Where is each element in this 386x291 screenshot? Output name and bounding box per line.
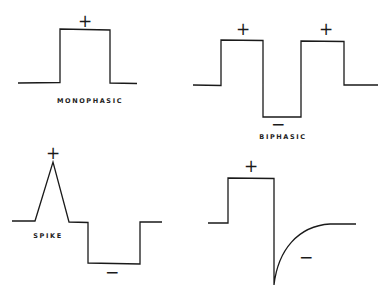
positive-sign: + <box>244 156 258 176</box>
biphasic-waveform-group: + + − BIPHASIC <box>193 19 378 141</box>
biphasic-label: BIPHASIC <box>259 133 306 141</box>
waveform-diagram: + MONOPHASIC + + − BIPHASIC + − SPIKE + … <box>0 0 386 291</box>
exponential-waveform <box>208 178 356 285</box>
monophasic-waveform <box>18 29 137 84</box>
negative-sign: − <box>105 262 119 282</box>
positive-sign: + <box>78 11 92 31</box>
negative-sign: − <box>271 114 285 134</box>
monophasic-label: MONOPHASIC <box>57 97 123 105</box>
spike-waveform-group: + − SPIKE <box>12 143 162 282</box>
exponential-waveform-group: + − <box>208 156 356 285</box>
positive-sign: + <box>236 19 250 39</box>
positive-sign: + <box>319 19 333 39</box>
positive-sign: + <box>46 143 60 163</box>
spike-waveform <box>12 162 162 264</box>
negative-sign: − <box>299 247 313 267</box>
biphasic-waveform <box>193 40 378 117</box>
monophasic-waveform-group: + MONOPHASIC <box>18 11 137 105</box>
spike-label: SPIKE <box>33 232 62 240</box>
